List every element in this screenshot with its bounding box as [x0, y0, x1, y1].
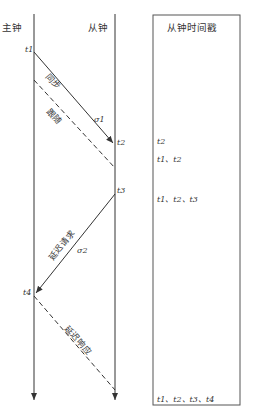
timestamp-entry-4: t1、t2、t3、t4 — [157, 393, 214, 404]
timestamp-entry-2: t1、t2 — [157, 153, 182, 164]
master-clock-label: 主钟 — [2, 20, 22, 34]
follow-up-message-line — [34, 80, 115, 168]
sync-delay-symbol: σ1 — [94, 115, 105, 124]
timestamp-entry-3: t1、t2、t3 — [157, 193, 198, 204]
delay-request-delay-symbol: σ2 — [77, 246, 88, 255]
event-t4-label: t4 — [23, 288, 31, 297]
timestamps-box — [153, 15, 240, 405]
timestamp-entry-1: t2 — [157, 137, 165, 146]
event-t3-label: t3 — [117, 186, 125, 195]
event-t2-label: t2 — [117, 138, 125, 147]
slave-clock-label: 从钟 — [88, 20, 108, 34]
sync-message-arrow — [34, 52, 113, 143]
timestamps-box-title: 从钟时间戳 — [167, 20, 217, 34]
delay-request-arrow — [36, 194, 115, 293]
event-t1-label: t1 — [25, 45, 33, 54]
ptp-sync-diagram — [0, 0, 255, 419]
